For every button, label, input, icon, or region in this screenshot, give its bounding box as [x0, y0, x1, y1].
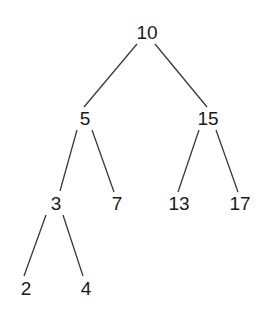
node-3: 3 [51, 194, 62, 213]
node-15: 15 [197, 109, 218, 128]
node-13: 13 [168, 194, 189, 213]
edge-5-7 [92, 130, 114, 192]
node-7: 7 [112, 194, 123, 213]
node-5: 5 [80, 109, 91, 128]
node-17: 17 [229, 194, 250, 213]
edge-10-5 [84, 44, 137, 107]
node-2: 2 [21, 279, 32, 298]
edge-15-17 [216, 130, 238, 192]
edge-3-2 [24, 215, 46, 276]
edge-15-13 [178, 130, 199, 192]
tree-diagram: 10 5 15 3 7 13 17 2 4 [0, 0, 263, 311]
edge-10-15 [155, 44, 207, 107]
edge-3-4 [63, 215, 83, 276]
node-10: 10 [136, 23, 157, 42]
node-4: 4 [81, 279, 92, 298]
tree-edges [0, 0, 263, 311]
edge-5-3 [60, 130, 77, 191]
